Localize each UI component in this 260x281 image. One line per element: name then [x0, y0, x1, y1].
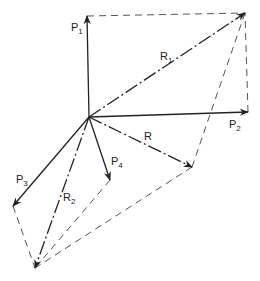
vector-r1: [89, 13, 245, 117]
vector-r2: [35, 117, 89, 268]
vector-p3: [13, 117, 89, 206]
construction-line-r1-to-r: [192, 13, 245, 167]
construction-line-p1-top: [87, 13, 245, 16]
construction-line-p4-bottom: [35, 180, 110, 268]
construction-line-r2-to-r: [35, 167, 192, 268]
resultant-vectors: [35, 13, 245, 268]
construction-line-p3-bottom: [13, 206, 35, 268]
label-p2: P2: [229, 118, 241, 133]
vector-r: [89, 117, 192, 167]
label-p3: P3: [16, 173, 28, 188]
vector-p1: [87, 16, 89, 117]
label-r1: R1: [160, 50, 173, 65]
label-r: R: [144, 130, 152, 142]
label-p4: P4: [111, 155, 123, 170]
force-vector-diagram: P1 R1 P2 R P4 P3 R2: [0, 0, 260, 281]
vector-p2: [89, 112, 248, 117]
label-p1: P1: [71, 21, 83, 36]
vector-p4: [89, 117, 110, 180]
force-vectors: [13, 16, 248, 206]
construction-line-p2-right: [245, 13, 248, 112]
label-r2: R2: [63, 191, 76, 206]
